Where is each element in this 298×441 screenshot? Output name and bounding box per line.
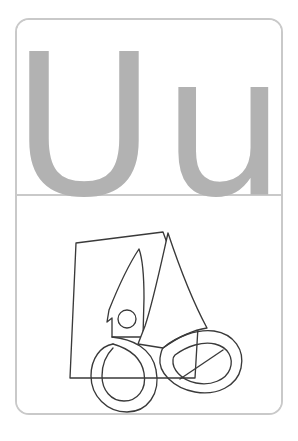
pivot-screw bbox=[118, 310, 136, 328]
flashcard-root: U u bbox=[0, 0, 298, 441]
letter-panel: U u bbox=[17, 20, 281, 196]
picture-panel bbox=[17, 198, 281, 413]
lowercase-letter: u bbox=[162, 56, 283, 197]
uppercase-letter: U bbox=[15, 56, 156, 197]
letter-pair: U u bbox=[17, 20, 281, 194]
flashcard: U u bbox=[15, 18, 283, 415]
scissors-and-paper-illustration bbox=[17, 198, 281, 413]
